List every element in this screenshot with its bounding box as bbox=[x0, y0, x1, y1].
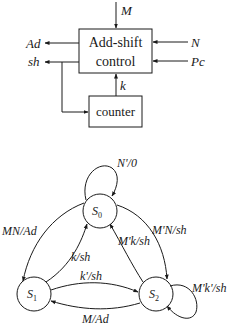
label-s2-self: M'k'/sh bbox=[191, 281, 226, 295]
transition-s1-s2 bbox=[51, 283, 138, 292]
sh-output-label: sh bbox=[28, 54, 40, 69]
transition-s2-s1 bbox=[51, 301, 140, 309]
pc-input-label: Pc bbox=[190, 54, 205, 69]
n-input-label: N bbox=[190, 35, 201, 50]
diagram-canvas: Add-shift control counter M N Pc Ad sh k… bbox=[0, 0, 238, 326]
control-box-label-line2: control bbox=[96, 54, 136, 69]
transition-s0-s1 bbox=[23, 203, 84, 281]
m-input-label: M bbox=[120, 3, 133, 18]
control-box-label-line1: Add-shift bbox=[89, 35, 143, 50]
label-s2-s0: M'k/sh bbox=[117, 234, 150, 248]
state-diagram bbox=[17, 166, 197, 318]
label-s0-s1: MN/Ad bbox=[1, 224, 38, 238]
ad-output-label: Ad bbox=[25, 36, 41, 51]
k-signal-label: k bbox=[120, 78, 126, 93]
counter-box-label: counter bbox=[96, 104, 136, 119]
label-s0-s2: M'N/sh bbox=[151, 223, 187, 237]
label-s1-s2: k'/sh bbox=[80, 269, 102, 283]
label-s1-s0: k/sh bbox=[71, 250, 90, 264]
transition-s2-s0 bbox=[110, 224, 143, 282]
label-s0-self: N'/0 bbox=[116, 156, 137, 170]
label-s2-s1: M/Ad bbox=[81, 312, 110, 326]
